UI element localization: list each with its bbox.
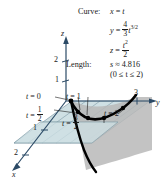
marker-label-t0-var: t [26,92,28,101]
x-tick-label-1: 1 [33,124,37,132]
length-value: s≈4.816 [110,61,140,69]
marker-label-t-three-halves-var: t [62,119,64,128]
equation-x-lhs: x [110,7,114,16]
curve-label: Curve: [78,8,100,16]
curtain-back-panel [135,97,152,155]
marker-label-t-half-numerator: 1 [37,106,43,114]
marker-label-t2-eq: = [108,109,113,118]
curve-point-t1 [86,116,90,120]
marker-label-t1: t=1 [66,93,81,101]
equation-y-operator: = [116,26,121,35]
equation-y-exponent: 3/2 [130,24,138,30]
equation-x-rhs: t [122,7,124,16]
marker-label-t1-var: t [66,92,68,101]
length-symbol: s [110,60,113,69]
equation-z-denominator: 2 [122,50,129,59]
marker-label-t-half-var: t [26,111,28,120]
equation-z-operator: = [115,46,120,55]
curve-point-t2 [121,106,125,110]
equation-z: z=t22 [110,40,129,59]
marker-label-t2-value: 2 [115,109,119,118]
marker-label-t-half-fraction: 12 [37,106,43,123]
marker-label-t0-eq: = [30,92,35,101]
equation-z-fraction: t22 [122,40,129,59]
marker-label-t-half: t=12 [26,106,43,123]
marker-label-t-half-eq: = [30,111,35,120]
equation-x: x=t [110,8,125,16]
y-axis-label: y [156,99,160,107]
marker-label-t1-eq: = [70,92,75,101]
marker-label-t-three-halves-denominator: 2 [73,122,79,131]
z-axis-label: z [61,30,64,38]
equation-x-operator: = [116,7,121,16]
marker-label-t0-value: 0 [37,92,41,101]
marker-label-t2-var: t [104,109,106,118]
marker-label-t0: t=0 [26,93,41,101]
marker-label-t1-value: 1 [77,92,81,101]
parametric-curve-figure: Curve: x=t y=43t3/2 z=t22 Length: s≈4.81… [0,0,165,182]
length-label: Length: [66,61,91,69]
x-tick-label-2: 2 [14,149,18,157]
z-tick-label-2: 2 [54,56,58,64]
equation-z-lhs: z [110,46,113,55]
marker-label-t-three-halves: t=32 [62,114,79,131]
z-tick-label-1: 1 [55,76,59,84]
length-label-text: Length: [66,60,91,69]
marker-label-t2: t=2 [104,110,119,118]
equation-z-numerator-exponent: 2 [125,39,128,45]
marker-label-t-three-halves-fraction: 32 [73,114,79,131]
marker-label-t-half-denominator: 2 [37,114,43,123]
equation-z-numerator: t2 [122,40,129,50]
marker-label-t-three-halves-eq: = [66,119,71,128]
curve-label-text: Curve: [78,7,100,16]
marker-label-t-three-halves-numerator: 3 [73,114,79,122]
length-number: 4.816 [122,60,140,69]
figure-graphics [0,0,165,182]
y-tick-label-3: 3 [134,89,138,97]
x-axis-label: x [12,171,16,179]
length-approx-sign: ≈ [115,60,120,69]
equation-y-lhs: y [110,26,114,35]
equation-y: y=43t3/2 [110,21,138,38]
length-domain: (0 ≤ t ≤ 2) [110,71,143,79]
